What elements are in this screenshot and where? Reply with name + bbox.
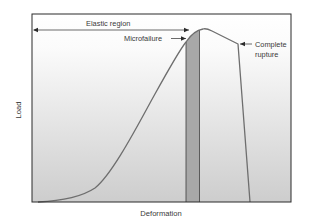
elastic-region-label: Elastic region: [86, 19, 130, 28]
microfailure-band: [186, 30, 199, 202]
microfailure-label: Microfailure: [124, 34, 162, 43]
y-axis-label: Load: [14, 102, 23, 119]
load-deformation-diagram: Elastic region Microfailure Complete rup…: [0, 0, 312, 223]
x-axis-label: Deformation: [140, 209, 181, 218]
complete-rupture-label-line1: Complete: [255, 40, 287, 49]
complete-rupture-label-line2: rupture: [255, 50, 278, 59]
